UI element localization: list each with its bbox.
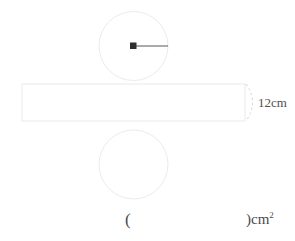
answer-close-paren-text: )cm xyxy=(246,211,269,227)
answer-blank: ( )cm2 xyxy=(0,210,295,238)
cylinder-net-figure xyxy=(0,0,295,241)
height-dimension-label: 12cm xyxy=(258,95,287,111)
height-brace-arc xyxy=(246,84,253,121)
unit-exponent: 2 xyxy=(269,210,274,220)
center-dot-icon xyxy=(130,43,137,50)
diagram-page: — — — · · —— —— · 12cm ( )cm2 xyxy=(0,0,295,241)
lateral-surface-rectangle xyxy=(22,84,245,121)
bottom-circle xyxy=(99,130,168,199)
answer-open-paren: ( xyxy=(125,210,131,230)
answer-close-paren-unit: )cm2 xyxy=(246,210,274,228)
